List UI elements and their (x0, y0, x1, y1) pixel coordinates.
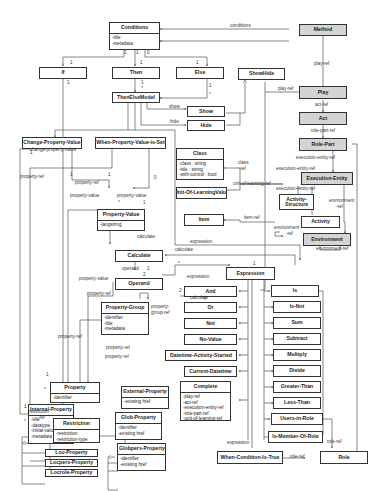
class-name: Is-Member-Of-Role (269, 432, 322, 442)
class-role[interactable]: Role (320, 451, 368, 464)
class-external-property[interactable]: External-Property -existing href (121, 386, 169, 409)
class-calculate[interactable]: Calculate (115, 250, 163, 262)
class-property-value[interactable]: Property-Value -langstring (97, 209, 145, 231)
class-thenelsemodel[interactable]: ThenElseModel (112, 92, 160, 103)
label-property-ref: property-ref (106, 346, 130, 351)
class-item[interactable]: Item (184, 214, 224, 226)
class-restriction[interactable]: Restriction -restriction -restriction-ty… (53, 418, 100, 443)
class-when-condition-is-true[interactable]: When-Condition-Is-True (217, 451, 283, 464)
class-name: When-Condition-Is-True (218, 452, 282, 463)
class-if[interactable]: If (39, 67, 87, 79)
class-activity-structure[interactable]: Activity-Structure (279, 194, 314, 210)
class-glob-property[interactable]: Glob-Property -identifier -existing href (115, 412, 162, 440)
class-name: Environment (304, 234, 350, 245)
class-class[interactable]: Class -class : string -title : string -w… (176, 148, 224, 180)
class-current-datetime[interactable]: Current-Datetime (184, 366, 237, 377)
class-name: Users-in-Role (272, 414, 322, 424)
label-class-ref: class (238, 161, 248, 166)
class-name: Item (185, 215, 223, 225)
class-name: Unit-Of-LearningValue (177, 188, 226, 198)
class-name: Property (51, 383, 99, 393)
label-environment-ref: -ref (286, 232, 293, 237)
class-datetime-activity-started[interactable]: Datetime-Activity-Started (165, 350, 237, 361)
class-then[interactable]: Then (112, 67, 160, 79)
class-when-property-value-is-set[interactable]: When-Property-Value-is-Set (95, 137, 166, 149)
class-name: ShowHide (239, 69, 284, 79)
label-expression: expression (187, 275, 209, 280)
multiplicity: 0 (154, 176, 157, 181)
class-name: Or (185, 303, 236, 312)
class-role-part[interactable]: Role-Part (299, 138, 347, 151)
class-operand[interactable]: Operand (115, 278, 163, 290)
class-else[interactable]: Else (176, 67, 224, 79)
class-play[interactable]: Play (299, 86, 347, 99)
class-name: External-Property (122, 387, 168, 397)
multiplicity: 1 (253, 262, 256, 267)
class-attributes: -play-ref -act-ref -execution-entity-ref… (181, 392, 230, 423)
class-name: Activity (302, 217, 339, 227)
class-act[interactable]: Act (299, 112, 347, 125)
class-divide[interactable]: Divide (273, 365, 321, 377)
label-play-ref-showhide: play-ref (278, 87, 293, 92)
label-property-value: property-value (79, 277, 108, 282)
class-name: Expression (227, 268, 274, 279)
class-showhide[interactable]: ShowHide (238, 68, 285, 80)
class-conditions[interactable]: Conditions -title -metadata (109, 22, 160, 50)
class-name: Is (272, 286, 318, 296)
class-multiply[interactable]: Multiply (273, 349, 321, 361)
class-complete[interactable]: Complete -play-ref -act-ref -execution-e… (180, 381, 231, 421)
class-name: Restriction (54, 419, 99, 429)
class-greater-than[interactable]: Greater-Than (273, 381, 321, 393)
class-or[interactable]: Or (184, 302, 237, 313)
class-not[interactable]: Not (184, 318, 237, 329)
label-item-ref: item-ref (244, 216, 260, 221)
class-is[interactable]: Is (271, 285, 319, 297)
label-execution-entity-ref: execution-entity-ref (276, 167, 315, 172)
class-attributes: -langstring (98, 220, 144, 229)
class-locrole-property[interactable]: Locrole-Property (45, 469, 98, 477)
multiplicity: 1 (46, 373, 49, 378)
class-name: Locpers-Property (46, 460, 97, 466)
class-property[interactable]: Property -identifier (50, 382, 100, 403)
class-execution-entity[interactable]: Execution-Entity (301, 172, 353, 185)
class-name: Class (177, 149, 223, 159)
class-sum[interactable]: Sum (273, 317, 321, 329)
class-environment[interactable]: Environment (303, 233, 351, 246)
class-name: Property-Group (102, 303, 148, 313)
class-attributes: -restriction -restriction-type (54, 429, 99, 443)
label-environment-ref: environment (329, 199, 354, 204)
multiplicity: * (24, 420, 26, 425)
class-is-not[interactable]: Is-Not (273, 301, 321, 313)
class-expression[interactable]: Expression (226, 267, 275, 280)
label-expression: expression (227, 441, 249, 446)
label-environment-ref: environment (274, 226, 299, 231)
class-name: Conditions (110, 23, 159, 33)
label-operand: operand (122, 267, 139, 272)
class-name: Not (185, 319, 236, 328)
label-execution-entity-ref: execution-entity-ref (276, 187, 315, 192)
class-activity[interactable]: Activity (301, 216, 340, 228)
class-method[interactable]: Method (299, 24, 347, 36)
class-attributes: -title -metadata (110, 33, 159, 47)
class-name: Operand (116, 279, 162, 289)
class-property-group[interactable]: Property-Group -identifier -title -metad… (101, 302, 149, 335)
class-subtract[interactable]: Subtract (273, 333, 321, 345)
label-property-ref: property-ref (58, 335, 82, 340)
label-property-ref: property-ref (87, 292, 111, 297)
multiplicity: 2 (179, 289, 182, 294)
class-loc-property[interactable]: Loc-Property (45, 449, 98, 457)
multiplicity: * (118, 201, 120, 206)
class-locpers-property[interactable]: Locpers-Property (45, 459, 98, 467)
class-unit-of-learning-value[interactable]: Unit-Of-LearningValue (176, 187, 227, 199)
class-globpers-property[interactable]: Globpers-Property -identifier -existing … (117, 443, 166, 471)
class-show[interactable]: Show (187, 106, 225, 117)
class-is-member-of-role[interactable]: Is-Member-Of-Role (268, 431, 323, 443)
class-name: When-Property-Value-is-Set (96, 138, 165, 148)
class-name: No-Value (185, 335, 236, 344)
class-users-in-role[interactable]: Users-in-Role (271, 413, 323, 425)
class-no-value[interactable]: No-Value (184, 334, 237, 345)
class-attributes: -identifier -existing href (118, 454, 165, 468)
class-less-than[interactable]: Less-Than (273, 397, 321, 409)
class-name: ThenElseModel (113, 93, 159, 102)
class-hide[interactable]: Hide (187, 120, 225, 131)
